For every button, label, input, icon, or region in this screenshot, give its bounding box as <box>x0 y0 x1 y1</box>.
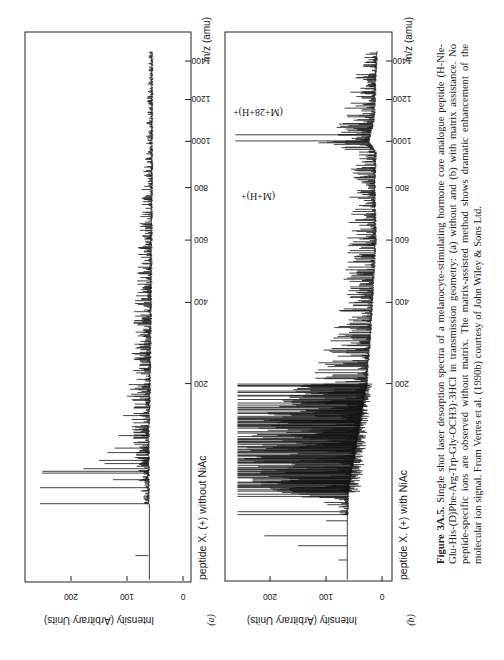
panel-b-letter: (b) <box>405 614 417 626</box>
figure-page: 200400600800100012001400 0100200 m/z (am… <box>0 0 504 660</box>
y-tick-label: 200 <box>263 592 277 602</box>
panel-a-letter: (a) <box>205 614 217 626</box>
panel-a-title: peptide X. (+) without NiAc <box>196 455 208 580</box>
panel-b-y-axis-label: Intensity (Arbitrary Units) <box>247 615 357 626</box>
x-tick-label: 600 <box>194 235 208 245</box>
x-tick-label: 800 <box>194 183 208 193</box>
panel-b-trace <box>235 52 378 580</box>
x-tick-label: 400 <box>194 297 208 307</box>
x-tick-label: 1200 <box>392 94 411 104</box>
y-tick-label: 0 <box>180 592 185 602</box>
panel-b-x-axis: 200400600800100012001400 <box>386 56 411 389</box>
x-tick-label: 200 <box>395 379 409 389</box>
panel-a-spectrum: 200400600800100012001400 0100200 m/z (am… <box>25 17 217 626</box>
x-tick-label: 800 <box>395 183 409 193</box>
panel-a-y-axis: 0100200 <box>64 576 186 602</box>
y-tick-label: 0 <box>379 592 384 602</box>
panel-a-frame <box>25 32 191 582</box>
x-tick-label: 400 <box>395 297 409 307</box>
y-tick-label: 100 <box>319 592 333 602</box>
panel-b-spectrum: 200400600800100012001400 0100200 m/z (am… <box>225 17 417 626</box>
x-tick-label: 1000 <box>191 136 210 146</box>
x-tick-label: 200 <box>194 379 208 389</box>
y-tick-label: 100 <box>120 592 134 602</box>
panel-a-x-axis-label: m/z (amu) <box>201 17 212 62</box>
panel-a-y-axis-label: Intensity (Arbitrary Units) <box>44 615 154 626</box>
panel-a-x-axis: 200400600800100012001400 <box>185 56 210 389</box>
x-tick-label: 600 <box>395 235 409 245</box>
x-tick-label: 1000 <box>392 136 411 146</box>
annotation-m-plus-h: (M+H)+ <box>241 190 275 202</box>
panel-a-trace <box>40 52 153 580</box>
spectra-figure: 200400600800100012001400 0100200 m/z (am… <box>0 0 504 660</box>
panel-b-title: peptide X. (+) with NiAc <box>397 470 409 580</box>
x-tick-label: 1200 <box>191 94 210 104</box>
panel-b-y-axis: 0100200 <box>263 576 385 602</box>
annotation-m-plus-28-plus-h: (M+28+H)+ <box>233 106 283 118</box>
figure-caption: Figure 3A.5. Single shot laser desorptio… <box>435 44 484 564</box>
panel-b-x-axis-label: m/z (amu) <box>403 17 414 62</box>
y-tick-label: 200 <box>64 592 78 602</box>
caption-body: Single shot laser desorption spectra of … <box>435 44 483 564</box>
figure-number: Figure 3A.5. <box>435 507 446 564</box>
